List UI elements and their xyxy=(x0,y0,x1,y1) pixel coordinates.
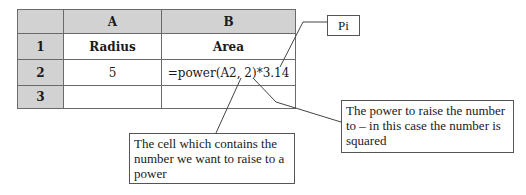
cell-b1[interactable]: Area xyxy=(162,34,296,60)
cell-a1[interactable]: Radius xyxy=(64,34,162,60)
row-header-2[interactable]: 2 xyxy=(18,60,64,86)
power-callout: The power to raise the number to – in th… xyxy=(341,100,514,153)
table-row: 3 xyxy=(18,86,296,109)
row-header-3[interactable]: 3 xyxy=(18,86,64,109)
spreadsheet-grid: A B 1 Radius Area 2 5 =power(A2, 2)*3.14… xyxy=(17,9,296,109)
cell-b3[interactable] xyxy=(162,86,296,109)
column-header-a[interactable]: A xyxy=(64,10,162,34)
cell-a2[interactable]: 5 xyxy=(64,60,162,86)
corner-cell[interactable] xyxy=(18,10,64,34)
pi-callout: Pi xyxy=(327,15,360,36)
cell-b2[interactable]: =power(A2, 2)*3.14 xyxy=(162,60,296,86)
column-header-b[interactable]: B xyxy=(162,10,296,34)
cell-reference-callout: The cell which contains the number we wa… xyxy=(129,133,295,184)
row-header-1[interactable]: 1 xyxy=(18,34,64,60)
table-row: 2 5 =power(A2, 2)*3.14 xyxy=(18,60,296,86)
cell-a3[interactable] xyxy=(64,86,162,109)
column-header-row: A B xyxy=(18,10,296,34)
table-row: 1 Radius Area xyxy=(18,34,296,60)
